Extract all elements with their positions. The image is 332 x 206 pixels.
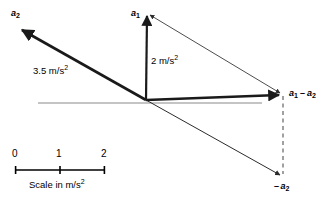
label-a2-subscript: 2 (16, 12, 20, 19)
magnitude-a2-value: 3.5 m/s (33, 65, 64, 76)
label-magnitude-a1: 2 m/s2 (151, 54, 178, 66)
vector-a1-minus-a2 (146, 95, 279, 100)
scale-caption-exponent: 2 (81, 178, 85, 185)
magnitude-a1-value: 2 m/s (151, 55, 174, 66)
scale-caption-text: Scale in m/s (29, 179, 81, 190)
label-vector-a2: a2 (11, 9, 20, 19)
scale-tick-label-1: 1 (56, 149, 62, 159)
scale-bar (15, 166, 105, 174)
label-a1ma2-subscript1: 1 (294, 92, 298, 99)
label-a1-subscript: 1 (136, 12, 140, 19)
label-a1ma2-minus: – (300, 88, 305, 98)
label-vector-neg-a2: –a2 (274, 182, 289, 192)
label-a1ma2-subscript2: 2 (312, 92, 316, 99)
scale-tick-label-0: 0 (12, 149, 18, 159)
magnitude-a1-exponent: 2 (174, 54, 178, 61)
vector-diagram-figure: a2 a1 3.5 m/s2 2 m/s2 a1–a2 –a2 0 1 2 Sc… (0, 0, 332, 206)
vector-diagram-canvas (0, 0, 332, 206)
label-vector-a1: a1 (131, 9, 140, 19)
scale-caption: Scale in m/s2 (29, 178, 85, 190)
vector-a1 (146, 16, 147, 100)
label-magnitude-a2: 3.5 m/s2 (33, 64, 68, 76)
vector-neg-a2 (146, 100, 280, 175)
label-neg-a2-minus: – (274, 181, 279, 191)
label-vector-a1-minus-a2: a1–a2 (289, 89, 316, 99)
magnitude-a2-exponent: 2 (64, 64, 68, 71)
scale-tick-label-2: 2 (101, 149, 107, 159)
label-neg-a2-subscript: 2 (286, 185, 290, 192)
